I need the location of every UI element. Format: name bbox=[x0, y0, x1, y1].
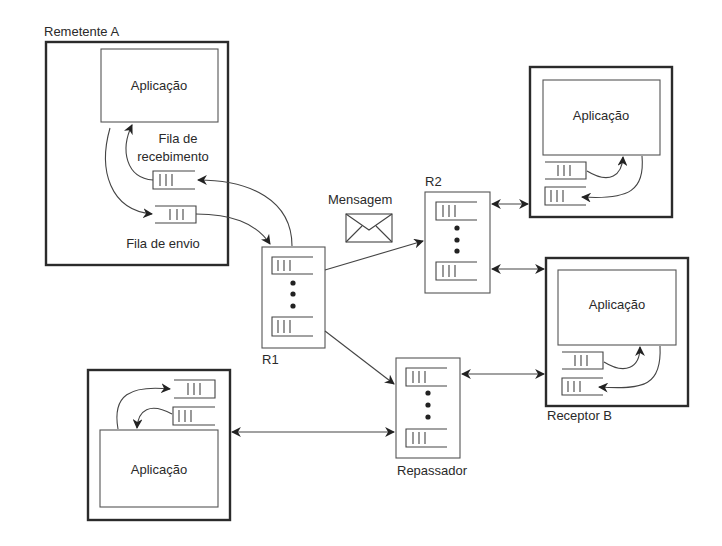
receiver-host: Aplicação Receptor B bbox=[546, 258, 688, 423]
router-r2: R2 bbox=[425, 174, 490, 293]
sender-app-label: Aplicação bbox=[131, 78, 187, 93]
top-right-app-label: Aplicação bbox=[573, 108, 629, 123]
receiver-label: Receptor B bbox=[547, 408, 612, 423]
relay-router: Repassador bbox=[396, 358, 468, 478]
send-queue-label: Fila de envio bbox=[126, 236, 200, 251]
receiver-app-label: Aplicação bbox=[589, 297, 645, 312]
router-r1-label: R1 bbox=[262, 352, 279, 367]
sender-label: Remetente A bbox=[44, 24, 119, 39]
relay-label: Repassador bbox=[397, 463, 468, 478]
router-r2-label: R2 bbox=[425, 174, 442, 189]
envelope-icon bbox=[346, 214, 392, 242]
sender-host: Remetente A Aplicação Fila de recebiment… bbox=[44, 24, 228, 265]
receive-queue-label-1: Fila de bbox=[158, 131, 197, 146]
message-label: Mensagem bbox=[328, 192, 392, 207]
arrow-r1-to-relay bbox=[325, 331, 394, 384]
bottom-left-app-label: Aplicação bbox=[131, 462, 187, 477]
bottom-left-host: Aplicação bbox=[88, 370, 230, 520]
message-queue-diagram: Remetente A Aplicação Fila de recebiment… bbox=[0, 0, 722, 546]
top-right-host: Aplicação bbox=[530, 67, 672, 217]
receive-queue-label-2: recebimento bbox=[137, 149, 209, 164]
arrow-r1-to-r2 bbox=[325, 241, 423, 270]
router-r1: R1 bbox=[262, 247, 325, 367]
